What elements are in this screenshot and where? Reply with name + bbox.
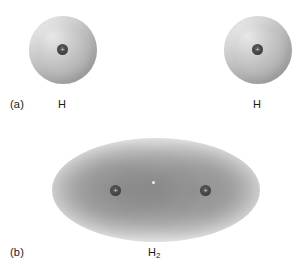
proton-nucleus-icon: + bbox=[57, 44, 68, 55]
positive-charge-label: + bbox=[57, 44, 68, 55]
species-label-hydrogen-left: H bbox=[58, 98, 66, 110]
proton-nucleus-icon: + bbox=[110, 185, 121, 196]
panel-label-b: (b) bbox=[10, 246, 24, 258]
chemistry-figure: + + (a) H H + + (b) H2 bbox=[0, 0, 308, 270]
species-label-subscript: 2 bbox=[156, 251, 160, 260]
species-label-base: H bbox=[148, 246, 156, 258]
proton-nucleus-icon: + bbox=[252, 44, 263, 55]
species-label-hydrogen-molecule: H2 bbox=[148, 246, 160, 258]
proton-nucleus-icon: + bbox=[200, 185, 211, 196]
panel-label-a: (a) bbox=[10, 98, 24, 110]
positive-charge-label: + bbox=[110, 185, 121, 196]
positive-charge-label: + bbox=[252, 44, 263, 55]
positive-charge-label: + bbox=[200, 185, 211, 196]
hydrogen-atom-electron-cloud-right: + bbox=[224, 16, 292, 84]
species-label-hydrogen-right: H bbox=[253, 98, 261, 110]
cloud-highlight-speck bbox=[152, 181, 155, 184]
hydrogen-molecule-electron-cloud bbox=[52, 138, 260, 242]
hydrogen-atom-electron-cloud-left: + bbox=[29, 16, 97, 84]
